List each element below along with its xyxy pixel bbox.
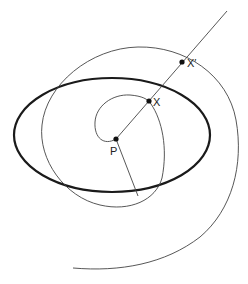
point-x xyxy=(146,98,151,103)
ellipse xyxy=(14,78,210,192)
point-x-prime xyxy=(179,59,184,64)
label-x: X xyxy=(153,96,161,108)
segment-p-down xyxy=(116,139,138,196)
ray-p-to-x-prime xyxy=(116,11,227,139)
label-x-prime: X′ xyxy=(187,57,196,69)
label-p: P xyxy=(110,145,117,157)
point-p xyxy=(113,136,118,141)
diagram-canvas: P X X′ xyxy=(0,0,248,284)
